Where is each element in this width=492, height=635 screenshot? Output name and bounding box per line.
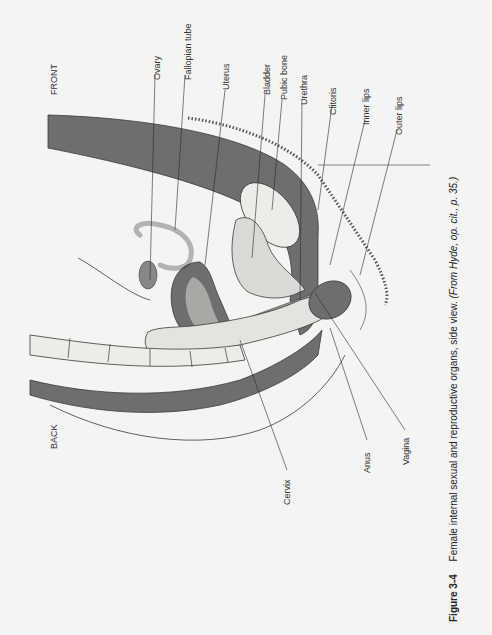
- caption-text: Female internal sexual and reproductive …: [448, 301, 459, 561]
- label-anus: Anus: [362, 452, 372, 473]
- front-label: FRONT: [49, 64, 59, 95]
- caption-source: (From Hyde, op. cit., p. 35.): [448, 177, 459, 299]
- label-vagina: Vagina: [401, 438, 411, 465]
- back-label: BACK: [49, 424, 59, 449]
- label-fallopian-tube: Fallopian tube: [183, 23, 193, 80]
- label-bladder: Bladder: [262, 64, 272, 95]
- label-clitoris: Clitoris: [328, 87, 338, 115]
- label-cervix: Cervix: [282, 479, 292, 505]
- label-pubic-bone: Pubic bone: [279, 55, 289, 100]
- ovary: [139, 261, 157, 289]
- label-outer-lips: Outer lips: [394, 96, 404, 135]
- label-ovary: Ovary: [152, 56, 162, 80]
- label-uterus: Uterus: [221, 63, 231, 90]
- anatomy-diagram: [0, 0, 492, 635]
- label-inner-lips: Inner lips: [361, 88, 371, 125]
- figure-caption: Figure 3-4 Female internal sexual and re…: [448, 177, 460, 622]
- label-urethra: Urethra: [299, 75, 309, 105]
- fallopian-tube: [136, 223, 191, 268]
- figure-number: Figure 3-4: [448, 574, 459, 622]
